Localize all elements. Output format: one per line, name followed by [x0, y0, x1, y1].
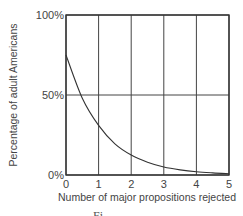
x-tick-label: 4	[193, 178, 199, 190]
grid-lines	[66, 15, 229, 175]
x-tick-label: 3	[161, 178, 167, 190]
x-tick-labels: 012345	[63, 178, 232, 190]
x-tick-label: 5	[226, 178, 232, 190]
x-tick-label: 1	[96, 178, 102, 190]
x-axis-label: Number of major propositions rejected	[58, 191, 236, 203]
y-tick-label: 50%	[42, 89, 64, 101]
y-axis-label: Percentage of adult Americans	[7, 23, 19, 166]
y-tick-label: 0%	[48, 169, 64, 181]
y-tick-label: 100%	[36, 9, 64, 21]
data-curve	[66, 55, 229, 174]
decay-line-chart: 012345 0%50%100% Number of major proposi…	[0, 0, 243, 216]
x-tick-label: 2	[128, 178, 134, 190]
y-tick-labels: 0%50%100%	[36, 9, 64, 181]
figure-caption-fragment: Fi	[93, 207, 103, 216]
